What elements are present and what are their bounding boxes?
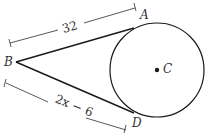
- center-point-c: [155, 68, 159, 72]
- label-length-bd: 2x − 6: [53, 92, 95, 120]
- label-point-c: C: [163, 62, 172, 76]
- label-length-ba: 32: [60, 18, 79, 36]
- tangent-diagram: 32 2x − 6 B A C D: [0, 0, 208, 137]
- label-point-b: B: [3, 55, 13, 69]
- segment-ba: [16, 28, 134, 62]
- label-point-a: A: [139, 8, 149, 22]
- label-point-d: D: [131, 116, 142, 130]
